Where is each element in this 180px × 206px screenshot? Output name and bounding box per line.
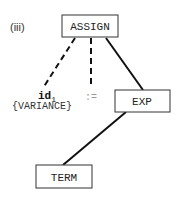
node-term: TERM [36, 165, 92, 188]
leaf-id: id1 {VARIANCE} [12, 90, 72, 112]
leaf-assign-operator: := [85, 92, 97, 103]
node-assign: ASSIGN [62, 15, 118, 37]
leaf-id-annotation: {VARIANCE} [12, 101, 72, 112]
parse-tree-diagram: (iii) ASSIGN id1 {VARIANCE} := EXP TERM [0, 0, 180, 206]
figure-label: (iii) [10, 21, 25, 33]
node-term-label: TERM [51, 172, 77, 184]
node-exp-label: EXP [132, 96, 152, 108]
node-assign-label: ASSIGN [70, 21, 110, 33]
edge-exp-term [63, 112, 126, 165]
edge-assign-id [43, 38, 75, 88]
edge-assign-exp [106, 38, 143, 90]
node-exp: EXP [115, 90, 170, 112]
